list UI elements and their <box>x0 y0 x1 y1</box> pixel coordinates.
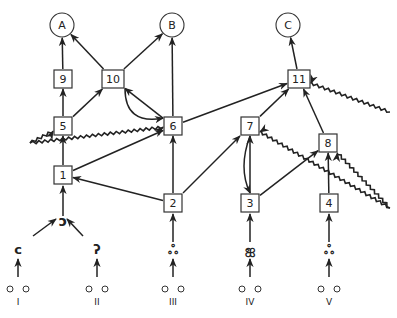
input-glyph: ʔ <box>93 242 100 257</box>
curved-edge-7-to-3 <box>244 136 250 193</box>
unit-node-11: 11 <box>288 70 310 88</box>
edge-10-to-B <box>124 34 162 69</box>
output-node-C: C <box>276 13 300 37</box>
input-glyph: ஐ <box>245 242 256 258</box>
input-IV: ஐIV <box>239 214 261 307</box>
receptor-circle-right <box>102 286 108 292</box>
output-node-B: B <box>160 13 184 37</box>
input-I: ᴄI <box>7 242 29 307</box>
input-II: ʔII <box>86 242 108 307</box>
unit-label: 2 <box>170 197 177 210</box>
recognition-network-diagram: ABC1234567891011 ↄᴄIʔIIஃIIIஐIVஃV <box>0 0 397 318</box>
receptor-circle-right <box>255 286 261 292</box>
input-roman-label: III <box>169 297 177 307</box>
edge-7-to-11 <box>260 89 289 116</box>
unit-node-4: 4 <box>320 194 338 212</box>
input-glyph: ஃ <box>168 242 179 257</box>
output-label: C <box>284 19 292 32</box>
edge-5-to-10 <box>73 89 102 117</box>
edge-I-to-merge <box>33 219 56 236</box>
unit-label: 4 <box>326 197 333 210</box>
input-glyph: ஃ <box>324 242 335 257</box>
unit-node-1: 1 <box>54 166 72 184</box>
unit-label: 5 <box>60 120 67 133</box>
output-node-A: A <box>50 13 74 37</box>
edge-6-to-B <box>172 38 173 116</box>
edge-8-to-11 <box>304 89 324 133</box>
unit-label: 7 <box>247 120 254 133</box>
input-glyph: ᴄ <box>14 242 22 257</box>
inhibitory-edge-to-11 <box>311 82 390 112</box>
input-roman-label: V <box>326 297 333 307</box>
input-roman-label: IV <box>246 297 256 307</box>
edge-11-to-C <box>291 38 297 69</box>
unit-node-2: 2 <box>164 194 182 212</box>
unit-node-10: 10 <box>102 70 124 88</box>
unit-label: 1 <box>60 169 67 182</box>
edge-3-to-8 <box>260 151 318 196</box>
inhibitory-edge-to-6 <box>30 126 163 143</box>
unit-node-6: 6 <box>164 117 182 135</box>
unit-label: 11 <box>292 73 306 86</box>
edge-1-to-6 <box>73 130 163 170</box>
edge-2-to-1 <box>73 178 163 201</box>
receptor-circle-left <box>7 286 13 292</box>
edge-9-to-A <box>62 38 63 69</box>
receptor-circle-left <box>239 286 245 292</box>
edge-2-to-7 <box>183 136 240 193</box>
unit-label: 8 <box>325 137 332 150</box>
unit-node-7: 7 <box>241 117 259 135</box>
unit-label: 3 <box>247 197 254 210</box>
edge-6-to-11 <box>183 83 287 122</box>
receptor-circle-left <box>162 286 168 292</box>
receptor-circle-right <box>334 286 340 292</box>
input-roman-label: II <box>94 297 99 307</box>
unit-label: 6 <box>170 120 177 133</box>
input-III: ஃIII <box>162 214 184 307</box>
unit-node-9: 9 <box>54 70 72 88</box>
edges-layer <box>62 34 329 201</box>
edge-10-to-A <box>71 34 104 69</box>
input-roman-label: I <box>17 297 20 307</box>
unit-node-5: 5 <box>54 117 72 135</box>
unit-node-8: 8 <box>319 134 337 152</box>
output-label: B <box>168 19 176 32</box>
edge-6-to-10 <box>125 88 163 118</box>
receptor-circle-left <box>318 286 324 292</box>
unit-label: 9 <box>60 73 67 86</box>
receptor-circle-right <box>23 286 29 292</box>
receptor-circle-right <box>178 286 184 292</box>
unit-label: 10 <box>106 73 120 86</box>
output-label: A <box>58 19 66 32</box>
edge-II-to-merge <box>67 219 83 236</box>
unit-node-3: 3 <box>241 194 259 212</box>
input-V: ஃV <box>318 214 340 307</box>
receptor-circle-left <box>86 286 92 292</box>
